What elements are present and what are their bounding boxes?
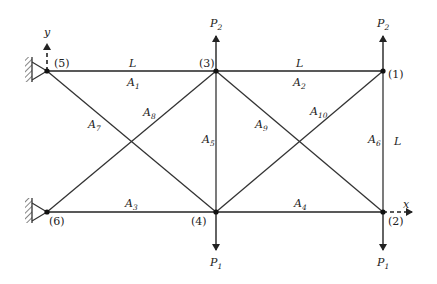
node-4-label: (4) xyxy=(191,215,207,228)
length-label-top-right: L xyxy=(295,57,303,70)
svg-text:P1: P1 xyxy=(376,256,389,271)
member-label-a2: A2 xyxy=(292,76,306,91)
member-label-a1: A1 xyxy=(126,76,140,91)
length-label-top-left: L xyxy=(128,57,136,70)
member-label-a7: A7 xyxy=(87,118,101,133)
node-1-label: (1) xyxy=(388,68,404,81)
member-label-a8: A8 xyxy=(142,106,156,121)
member-label-a4: A4 xyxy=(293,197,307,212)
member-label-a10: A10 xyxy=(309,105,328,120)
svg-text:A6: A6 xyxy=(367,133,381,148)
node-2-label: (2) xyxy=(388,215,404,228)
node-1-dot xyxy=(380,68,385,73)
load-label-node-1: P2 xyxy=(376,17,389,32)
member-label-a3: A3 xyxy=(124,197,138,212)
svg-text:A7: A7 xyxy=(87,118,101,133)
svg-text:A3: A3 xyxy=(124,197,138,212)
truss-diagram: y x (5) (3) (1) (6) (4) (2) L L L A1 A2 … xyxy=(0,0,437,284)
svg-text:A2: A2 xyxy=(292,76,306,91)
member-label-a9: A9 xyxy=(254,118,268,133)
node-5-dot xyxy=(44,68,49,73)
node-6-dot xyxy=(44,209,49,214)
svg-text:A4: A4 xyxy=(293,197,307,212)
load-label-node-2: P1 xyxy=(376,256,389,271)
y-axis-label: y xyxy=(43,26,51,39)
svg-text:P1: P1 xyxy=(209,256,222,271)
node-5-label: (5) xyxy=(54,57,70,70)
length-label-vertical: L xyxy=(393,135,401,148)
svg-text:A8: A8 xyxy=(142,106,156,121)
svg-text:A10: A10 xyxy=(309,105,328,120)
svg-text:P2: P2 xyxy=(376,17,389,32)
member-label-a5: A5 xyxy=(201,133,215,148)
svg-text:A5: A5 xyxy=(201,133,215,148)
node-2-dot xyxy=(380,209,385,214)
svg-text:A9: A9 xyxy=(254,118,268,133)
node-3-label: (3) xyxy=(199,57,215,70)
support-node-6 xyxy=(25,198,47,223)
member-label-a6: A6 xyxy=(367,133,381,148)
svg-text:A1: A1 xyxy=(126,76,140,91)
load-label-node-4: P1 xyxy=(209,256,222,271)
x-axis-label: x xyxy=(403,198,410,211)
support-node-5 xyxy=(25,57,47,82)
node-6-label: (6) xyxy=(49,215,65,228)
load-label-node-3: P2 xyxy=(209,17,222,32)
svg-text:P2: P2 xyxy=(209,17,222,32)
node-4-dot xyxy=(213,209,218,214)
